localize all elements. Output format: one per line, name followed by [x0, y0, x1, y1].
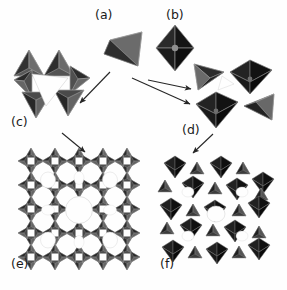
panel-a-tetrahedron	[96, 24, 146, 72]
panel-e-tetra-framework	[18, 148, 140, 274]
framework-pore-w	[42, 205, 55, 215]
framework-pore-nw	[41, 172, 56, 188]
octa-center-vertex	[172, 45, 178, 51]
octa-face-upper-left	[156, 25, 175, 48]
mixed-cluster-svg	[188, 58, 280, 136]
octa-face-upper-right	[175, 25, 194, 48]
framework-pore-ne	[103, 172, 118, 188]
mixed-framework-row-2	[158, 176, 268, 200]
mixed-framework-void-sw	[182, 231, 194, 241]
panel-d-mixed-cluster	[188, 58, 280, 136]
panel-f-mixed-framework	[158, 152, 276, 272]
tetrahedron-svg	[96, 24, 146, 72]
arrow-b-to-d	[148, 80, 191, 89]
panel-label-e: (e)	[11, 258, 28, 271]
framework-pore-n	[74, 172, 84, 185]
framework-pore-s	[74, 236, 84, 249]
panel-c-tetra-ring	[12, 48, 102, 120]
tetra-framework-svg	[18, 148, 140, 274]
mixed-framework-row-5	[162, 238, 270, 264]
panel-label-a: (a)	[95, 9, 112, 22]
arrow-a-to-d	[132, 78, 190, 104]
mixed-framework-void-se	[236, 231, 248, 241]
cluster-octa-upper-right	[230, 60, 272, 94]
cluster-tetra-lower-right	[244, 94, 274, 120]
mixed-framework-void-ne	[236, 187, 248, 197]
mixed-framework-void-nw	[182, 187, 194, 197]
ring-tetra-2	[44, 50, 74, 76]
panel-label-d: (d)	[182, 124, 200, 137]
panel-label-c: (c)	[11, 116, 28, 129]
framework-pore-e	[104, 205, 117, 215]
polyhedral-building-units-figure: (a) (b)	[0, 0, 287, 290]
mixed-framework-central-void	[207, 206, 225, 222]
mixed-framework-svg	[158, 152, 276, 272]
panel-label-b: (b)	[166, 9, 184, 22]
mixed-framework-row-1	[164, 156, 274, 194]
ring-tetra-6	[54, 90, 84, 116]
cluster-octa-lower-left	[196, 92, 238, 128]
octa-face-lower-left	[156, 48, 175, 71]
framework-central-pore	[66, 197, 93, 224]
cluster-central-void	[218, 76, 234, 90]
panel-label-f: (f)	[160, 258, 174, 271]
framework-pore-sw	[41, 232, 56, 248]
framework-pore-se	[103, 232, 118, 248]
tetra-ring-svg	[12, 48, 102, 120]
